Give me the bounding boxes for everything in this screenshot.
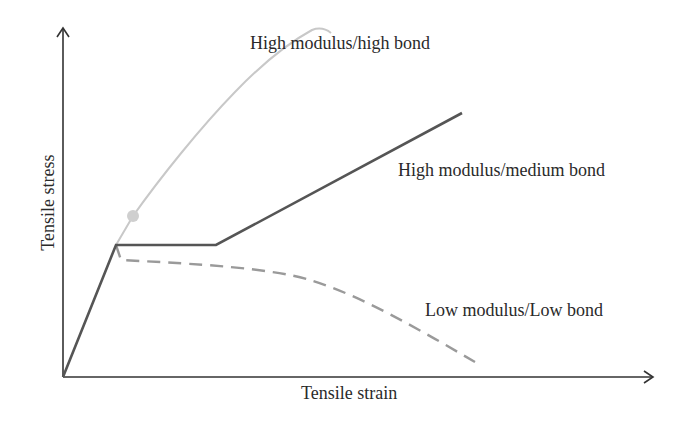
label-low-modulus-low-bond: Low modulus/Low bond bbox=[425, 300, 603, 321]
curve-high-modulus-high-bond bbox=[116, 29, 331, 245]
curve-low-modulus-low-bond bbox=[116, 245, 475, 362]
label-high-modulus-high-bond: High modulus/high bond bbox=[250, 33, 430, 54]
diagram-canvas bbox=[0, 0, 680, 423]
y-axis-label: Tensile stress bbox=[38, 148, 59, 258]
label-high-modulus-medium-bond: High modulus/medium bond bbox=[398, 160, 605, 181]
debond-marker bbox=[127, 210, 139, 222]
x-axis-label: Tensile strain bbox=[301, 383, 397, 404]
curve-high-modulus-medium-bond bbox=[63, 113, 462, 377]
